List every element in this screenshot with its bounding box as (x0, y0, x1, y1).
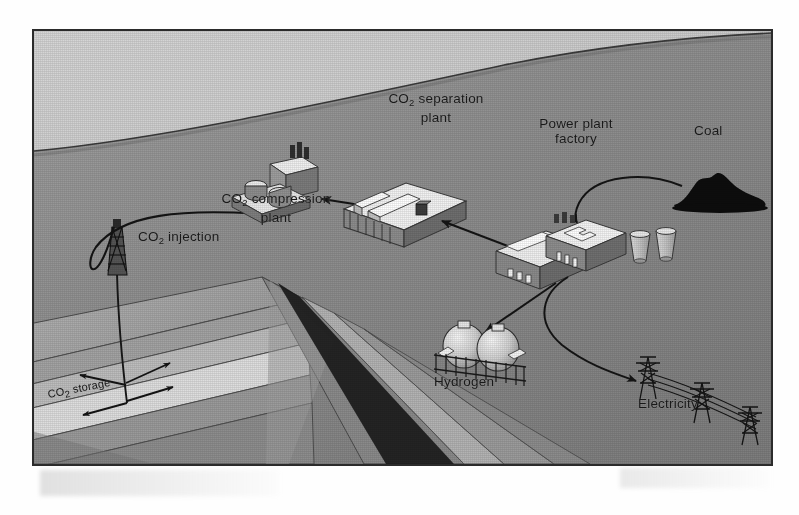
label-co2-separation-plant: CO2 separation plant (356, 91, 516, 125)
label-co2-injection: CO2 injection (138, 229, 219, 248)
label-power-plant-factory: Power plant factory (506, 116, 646, 146)
figure-page: CO2 separation plant CO2 compression pla… (0, 0, 799, 515)
scan-artifact-right (620, 468, 770, 488)
scan-artifact-left (40, 470, 280, 496)
label-hydrogen: Hydrogen (434, 374, 494, 389)
label-electricity: Electricity (638, 396, 698, 411)
label-coal: Coal (694, 123, 723, 138)
figure-frame: CO2 separation plant CO2 compression pla… (32, 29, 773, 466)
label-co2-compression-plant: CO2 compression plant (186, 191, 366, 225)
